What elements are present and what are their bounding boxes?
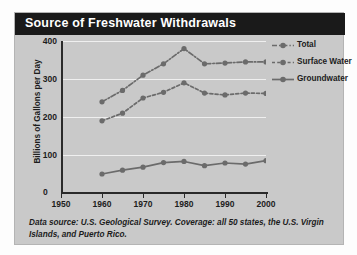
- data-point: [243, 162, 248, 167]
- screenshot-root: Source of Freshwater Withdrawals Billion…: [0, 0, 357, 255]
- y-axis-line: [61, 41, 63, 193]
- data-point: [263, 59, 266, 64]
- y-tick-0: 0: [43, 187, 48, 197]
- x-tick-1980: 1980: [175, 199, 194, 209]
- y-tick-400: 400: [31, 37, 57, 45]
- x-tickmark-1980: [184, 194, 185, 198]
- data-point: [181, 46, 186, 51]
- data-point: [140, 95, 145, 100]
- x-tickmark-1970: [143, 194, 144, 198]
- data-point: [120, 88, 125, 93]
- legend-item-total: Total: [271, 39, 345, 53]
- data-point: [99, 118, 104, 123]
- legend-swatch-icon: [271, 39, 295, 52]
- chart-title-bar: Source of Freshwater Withdrawals: [15, 13, 345, 35]
- x-tick-2000: 2000: [257, 199, 276, 209]
- page-title: Source of Freshwater Withdrawals: [25, 16, 236, 30]
- data-point: [161, 90, 166, 95]
- legend-label: Total: [297, 40, 316, 49]
- x-axis-line: [61, 192, 268, 194]
- data-point: [202, 163, 207, 168]
- data-point: [120, 168, 125, 173]
- legend-swatch-icon: [271, 73, 295, 86]
- data-point: [99, 99, 104, 104]
- data-point: [202, 90, 207, 95]
- x-tick-1990: 1990: [216, 199, 235, 209]
- data-point: [161, 160, 166, 165]
- chart-plot-region: Billions of Gallons per Day 100200300400…: [15, 35, 345, 215]
- data-point: [222, 92, 227, 97]
- data-point: [263, 158, 266, 163]
- legend-label: Groundwater: [297, 74, 348, 83]
- data-point: [222, 60, 227, 65]
- data-point: [202, 61, 207, 66]
- legend-label: Surface Water: [297, 57, 352, 66]
- data-point: [161, 61, 166, 66]
- x-tick-1950: 1950: [52, 199, 71, 209]
- x-tickmark-1960: [102, 194, 103, 198]
- x-tickmark-1950: [61, 194, 62, 198]
- y-tick-300: 300: [31, 75, 57, 83]
- plot-canvas: [61, 41, 266, 193]
- data-point: [99, 171, 104, 176]
- y-tick-200: 200: [31, 113, 57, 121]
- data-point: [243, 90, 248, 95]
- legend-swatch-icon: [271, 56, 295, 69]
- data-point: [140, 165, 145, 170]
- data-point: [181, 80, 186, 85]
- chart-footnote: Data source: U.S. Geological Survey. Cov…: [29, 217, 335, 240]
- legend-item-groundwater: Groundwater: [271, 73, 345, 87]
- x-tick-1970: 1970: [134, 199, 153, 209]
- chart-legend: TotalSurface WaterGroundwater: [271, 39, 345, 99]
- x-tickmark-2000: [266, 194, 267, 198]
- data-point: [140, 73, 145, 78]
- data-point: [263, 91, 266, 96]
- chart-card: Source of Freshwater Withdrawals Billion…: [14, 12, 344, 245]
- data-point: [243, 59, 248, 64]
- y-tick-100: 100: [31, 151, 57, 159]
- series-svg: [61, 41, 266, 193]
- data-point: [222, 160, 227, 165]
- data-point: [181, 159, 186, 164]
- legend-item-surface-water: Surface Water: [271, 56, 345, 70]
- series-line-surface-water: [102, 83, 266, 121]
- x-tickmark-1990: [225, 194, 226, 198]
- x-tick-1960: 1960: [93, 199, 112, 209]
- data-point: [120, 111, 125, 116]
